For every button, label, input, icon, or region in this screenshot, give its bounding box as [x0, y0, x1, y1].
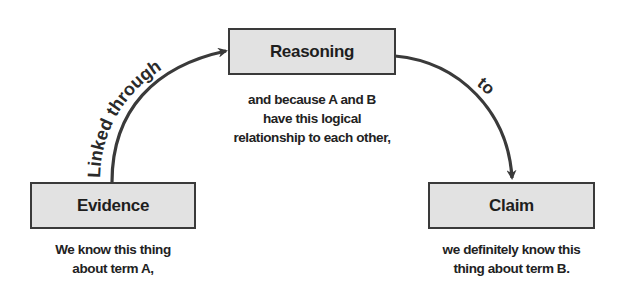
arrow-reasoning-to-claim	[395, 56, 512, 178]
caption-line: and because A and B	[212, 90, 412, 109]
caption-line: have this logical	[212, 109, 412, 128]
node-claim-label: Claim	[489, 196, 534, 216]
arrow-evidence-to-reasoning	[112, 51, 226, 182]
node-reasoning: Reasoning	[228, 28, 396, 75]
edge-label-linked-through: Linked through	[84, 56, 165, 178]
node-evidence-label: Evidence	[77, 196, 149, 216]
caption-line: relationship to each other,	[212, 128, 412, 147]
caption-line: We know this thing	[20, 240, 206, 259]
caption-line: about term A,	[20, 259, 206, 278]
claim-caption: we definitely know this thing about term…	[418, 240, 605, 278]
node-reasoning-label: Reasoning	[270, 42, 354, 62]
evidence-caption: We know this thing about term A,	[20, 240, 206, 278]
reasoning-caption: and because A and B have this logical re…	[212, 90, 412, 147]
caption-line: thing about term B.	[418, 259, 605, 278]
node-claim: Claim	[428, 182, 595, 229]
caption-line: we definitely know this	[418, 240, 605, 259]
node-evidence: Evidence	[30, 182, 196, 229]
